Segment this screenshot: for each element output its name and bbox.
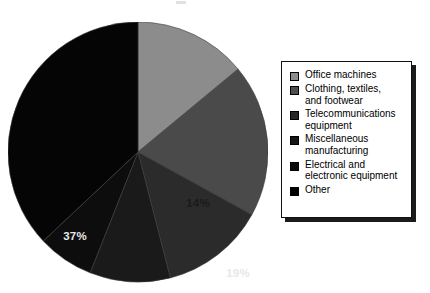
- legend-swatch-icon: [290, 72, 299, 81]
- legend-item-label: Clothing, textiles, and footwear: [305, 83, 381, 106]
- legend-item: Clothing, textiles, and footwear: [290, 83, 405, 106]
- legend-swatch-icon: [290, 86, 299, 95]
- scan-artifact: [176, 1, 186, 4]
- legend-item: Electrical and electronic equipment: [290, 159, 405, 182]
- legend-item: Miscellaneous manufacturing: [290, 133, 405, 156]
- legend-swatch-icon: [290, 187, 299, 196]
- pie-svg: 14%19%13%10%7%37%: [8, 22, 268, 283]
- pie-slice-label: 19%: [226, 267, 250, 279]
- legend-item-label: Office machines: [305, 69, 377, 81]
- pie-slice-label: 14%: [186, 197, 210, 209]
- pie-slice-label: 37%: [63, 230, 87, 242]
- pie-chart: 14%19%13%10%7%37%: [8, 22, 268, 283]
- legend-item: Office machines: [290, 69, 405, 81]
- legend-item-label: Electrical and electronic equipment: [305, 159, 397, 182]
- legend-item-label: Miscellaneous manufacturing: [305, 133, 368, 156]
- pie-slice-group: [8, 22, 268, 282]
- legend-item: Telecommunications equipment: [290, 108, 405, 131]
- legend-item-label: Telecommunications equipment: [305, 108, 396, 131]
- legend-item-label: Other: [305, 184, 330, 196]
- legend-swatch-icon: [290, 111, 299, 120]
- chart-legend: Office machinesClothing, textiles, and f…: [281, 61, 412, 218]
- legend-swatch-icon: [290, 136, 299, 145]
- pie-chart-figure: 14%19%13%10%7%37% Office machinesClothin…: [0, 0, 430, 293]
- legend-swatch-icon: [290, 162, 299, 171]
- legend-item: Other: [290, 184, 405, 196]
